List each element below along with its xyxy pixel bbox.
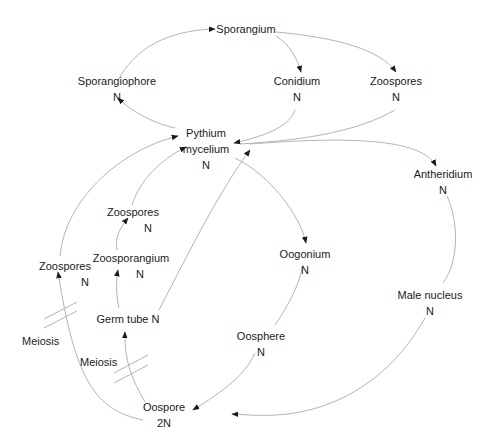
edge-oospore-zoospores-left — [58, 272, 143, 420]
annotation-meiosis-left: Meiosis — [22, 334, 59, 348]
node-zoospores-left: ZoosporesN — [39, 258, 91, 290]
edge-germtube-mycelium — [159, 150, 250, 310]
meiosis-hatch — [114, 355, 148, 373]
node-zoosporangium: ZoosporangiumN — [93, 250, 169, 282]
edge-zoospores-mid-mycelium — [132, 147, 186, 205]
edge-conidium-mycelium — [234, 110, 295, 143]
node-antheridium: AntheridiumN — [414, 166, 473, 198]
edge-sporangium-conidium — [276, 36, 301, 72]
edge-mycelium-antheridium — [250, 140, 436, 166]
node-zoospores-top: ZoosporesN — [370, 73, 422, 105]
edge-zoospores-left-mycelium — [60, 136, 178, 256]
edge-zoospores-top-mycelium — [240, 110, 395, 144]
life-cycle-diagram — [0, 0, 490, 444]
node-sporangium: Sporangium — [216, 21, 275, 37]
edge-mycelium-oogonium — [235, 158, 306, 243]
meiosis-hatch — [44, 311, 77, 328]
node-oospore: Oospore2N — [143, 399, 185, 431]
edge-oosphere-oospore — [193, 353, 255, 410]
node-conidium: ConidiumN — [274, 73, 320, 105]
edge-antheridium-male — [443, 196, 456, 283]
node-pythium-mycelium: PythiummyceliumN — [183, 125, 229, 173]
meiosis-hatch — [44, 302, 77, 319]
node-oosphere: OosphereN — [237, 328, 285, 360]
edge-sporangium-zoospores — [276, 32, 396, 72]
edge-oospore-germtube — [125, 332, 145, 402]
node-zoospores-mid: ZoosporesN — [107, 204, 159, 236]
node-sporangiophore: SporangiophoreN — [78, 73, 156, 105]
meiosis-hatch — [114, 365, 148, 383]
annotation-meiosis-center: Meiosis — [80, 355, 117, 369]
node-male-nucleus: Male nucleusN — [398, 287, 463, 319]
node-oogonium: OogoniumN — [280, 246, 331, 278]
node-germ-tube: Germ tube N — [97, 311, 160, 327]
